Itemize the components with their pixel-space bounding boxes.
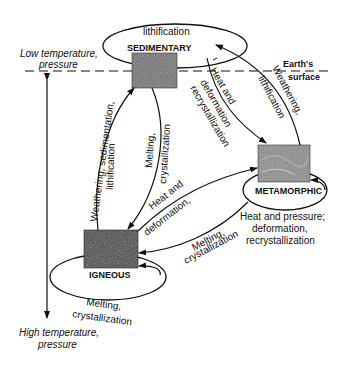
axis-bottom-line2: pressure	[37, 339, 77, 350]
process-met-loop-2: deformation,	[252, 223, 308, 234]
metamorphic-rock-image	[258, 145, 310, 182]
rock-cycle-diagram: SEDIMENTARY METAMORPHIC IGNEOUS Low temp…	[0, 0, 350, 366]
process-sed-loop: lithification	[143, 26, 190, 37]
earth-surface-line1: Earth's	[283, 59, 313, 69]
earth-surface-line2: surface	[288, 72, 320, 82]
process-ign-loop-2: crystallization	[72, 308, 133, 327]
label-igneous: IGNEOUS	[89, 270, 131, 280]
arrow-sed-loop	[213, 58, 217, 60]
igneous-rock-image	[84, 230, 138, 268]
label-sedimentary: SEDIMENTARY	[127, 43, 192, 53]
axis-top-line2: pressure	[38, 59, 78, 70]
process-met-loop-3: recrystallization	[246, 235, 315, 246]
label-metamorphic: METAMORPHIC	[255, 186, 323, 196]
process-sed-to-ign-1: Melting,	[143, 132, 156, 168]
process-ign-loop-1: Melting,	[86, 296, 122, 312]
process-met-loop-1: Heat and pressure;	[240, 211, 325, 222]
sedimentary-rock-image	[132, 53, 177, 88]
process-ign-to-sed-2: lithification	[104, 143, 117, 190]
arrow-igneous-loop	[139, 266, 160, 275]
axis-top-line1: Low temperature,	[20, 48, 98, 59]
process-sed-to-ign-2: crystallization	[157, 123, 172, 184]
axis-bottom-line1: High temperature,	[19, 327, 99, 338]
